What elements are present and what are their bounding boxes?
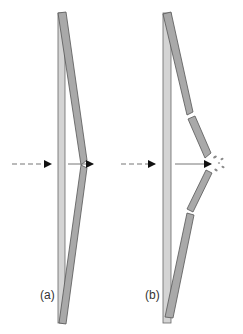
debris-fragment [218,162,220,164]
panel-a-label: (a) [40,288,55,302]
panel-a-vertical-bar [58,13,65,323]
panel-b-debris [213,155,225,172]
diagram-canvas: (a) (b) [0,0,243,334]
debris-fragment [221,166,225,169]
panel-b-label: (b) [145,288,160,302]
panel-b-vertical-bar [163,13,171,323]
panel-a: (a) [12,12,93,324]
panel-b-lower-short-segment [187,170,212,212]
debris-fragment [220,158,224,161]
debris-fragment [214,168,218,172]
debris-fragment [213,155,218,159]
panel-b-upper-short-segment [188,116,211,158]
panel-b: (b) [121,12,225,323]
